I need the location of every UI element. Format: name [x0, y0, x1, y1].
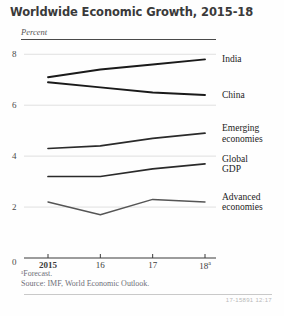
y-axis-tick-label: 0 — [12, 257, 17, 267]
bottom-rule — [24, 294, 272, 295]
footnote-source: Source: IMF, World Economic Outlook. — [21, 279, 149, 288]
y-axis-tick-label: 8 — [12, 49, 17, 59]
y-axis-tick-label: 2 — [12, 202, 17, 212]
x-axis-tick-label: 16 — [80, 260, 120, 270]
forecast-superscript: a — [208, 260, 211, 266]
axis-lines — [24, 254, 216, 258]
x-axis-tick-label: 18a — [185, 260, 225, 271]
series-lines — [48, 59, 205, 214]
series-line — [48, 59, 205, 77]
series-label: Global GDP — [222, 154, 248, 175]
series-label: Emerging economies — [222, 123, 263, 144]
chart-figure: Worldwide Economic Growth, 2015-18 Perce… — [0, 0, 284, 316]
x-axis-tick-label: 17 — [133, 260, 173, 270]
footnote-forecast: ᵃForecast. — [21, 269, 52, 278]
series-label: India — [222, 54, 242, 65]
y-axis-tick-label: 6 — [12, 100, 17, 110]
series-line — [48, 133, 205, 148]
y-axis-tick-label: 4 — [12, 151, 17, 161]
series-label: China — [222, 90, 245, 101]
print-code: 17-15891 12:17 — [226, 297, 272, 303]
series-label: Advanced economies — [222, 192, 263, 213]
series-line — [48, 164, 205, 177]
series-line — [48, 82, 205, 95]
